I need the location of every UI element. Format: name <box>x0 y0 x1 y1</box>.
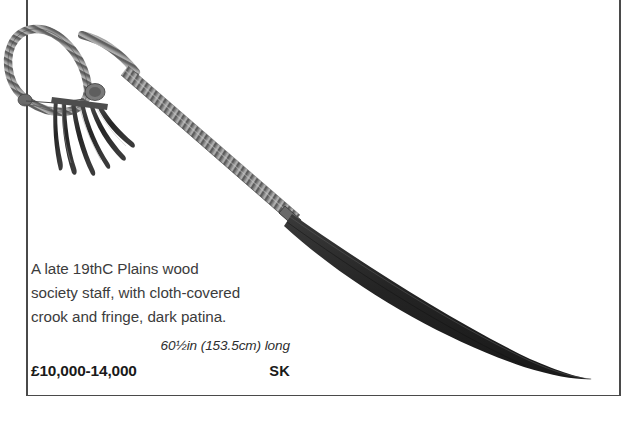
lot-dimensions: 60½in (153.5cm) long <box>31 336 290 356</box>
description-line-1: A late 19thC Plains wood <box>31 257 321 281</box>
description-line-2: society staff, with cloth-covered <box>31 281 321 305</box>
bare-shaft-group <box>284 214 592 379</box>
lot-estimate: £10,000-14,000 <box>31 362 137 380</box>
lot-specialist-initials: SK <box>269 363 290 379</box>
lot-footer: £10,000-14,000 SK <box>31 362 290 380</box>
catalogue-lot-entry: A late 19thC Plains wood society staff, … <box>0 0 624 429</box>
wrapped-shaft-group <box>121 66 301 228</box>
frame-rule-left <box>26 0 28 396</box>
description-line-3: crook and fringe, dark patina. <box>31 305 321 329</box>
lot-description: A late 19thC Plains wood society staff, … <box>31 257 321 329</box>
fringe-group <box>51 97 135 176</box>
frame-rule-bottom <box>26 395 620 397</box>
frame-rule-right <box>619 0 621 396</box>
